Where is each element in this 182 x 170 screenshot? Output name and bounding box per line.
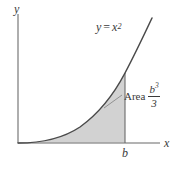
area-label: Area b3 3 <box>124 84 160 109</box>
x-tick-label-b: b <box>122 147 128 159</box>
area-fraction-denominator: 3 <box>150 97 158 109</box>
area-fraction-numerator: b3 <box>148 84 159 96</box>
area-label-text: Area <box>124 91 145 102</box>
curve-equation-expression: y = x 2 <box>96 21 122 33</box>
parabola-area-figure: y x b y = x 2 Area b3 3 <box>0 0 182 170</box>
area-label-fraction: b3 3 <box>148 84 159 109</box>
curve-equation-label: y = x 2 <box>96 20 122 33</box>
area-label-expression: Area b3 3 <box>124 84 160 109</box>
area-fraction-numerator-exponent: 3 <box>155 81 159 90</box>
curve-equation-equals: = <box>101 21 112 33</box>
x-axis-label: x <box>164 137 169 149</box>
y-axis-label: y <box>14 3 19 15</box>
